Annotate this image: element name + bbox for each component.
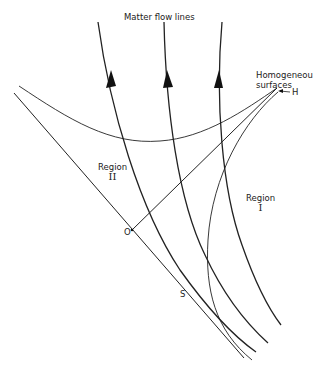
region-ii-label: Region II — [98, 162, 127, 182]
arrow-icon — [163, 70, 173, 88]
arrow-icon — [214, 70, 223, 88]
point-o-dot — [131, 229, 134, 232]
point-s-label: S — [180, 289, 185, 299]
flow-line-3 — [219, 22, 281, 325]
region-i-label: Region I — [246, 193, 275, 213]
homogeneous-surface-curve — [19, 86, 277, 141]
diagram-title: Matter flow lines — [124, 12, 195, 22]
diagram-canvas — [0, 0, 313, 365]
homogeneous-surfaces-label: Homogeneous surfaces — [256, 70, 313, 90]
region-boundary-curve — [208, 92, 278, 360]
point-h-label: H — [292, 87, 298, 97]
region-i-numeral: I — [246, 203, 275, 213]
region-ii-numeral: II — [98, 172, 127, 182]
homogeneous-label-line1: Homogeneous — [256, 70, 313, 80]
homogeneous-label-line2: surfaces — [256, 80, 313, 90]
point-o-label: O — [124, 227, 131, 237]
